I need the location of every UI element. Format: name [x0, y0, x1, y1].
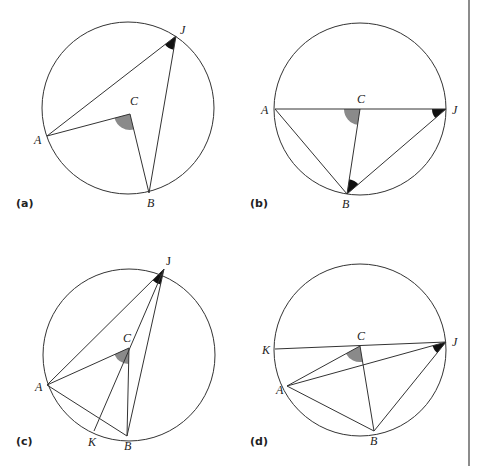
- panel-a-diagram: JACB(a): [16, 22, 214, 210]
- circle: [42, 22, 214, 194]
- point-label-b: B: [370, 434, 378, 448]
- point-label-k: K: [261, 343, 271, 357]
- panel-label: (c): [16, 435, 33, 448]
- segment-ac: [287, 346, 360, 386]
- segment-cb: [360, 346, 374, 431]
- point-label-b: B: [147, 196, 155, 210]
- segment-bj: [347, 109, 446, 194]
- segment-ab: [287, 386, 374, 431]
- point-label-a: A: [34, 380, 43, 394]
- segment-ja: [47, 269, 164, 385]
- point-label-a: A: [275, 383, 284, 397]
- point-label-b: B: [342, 197, 350, 211]
- panel-c-diagram: JACKB(c): [16, 253, 215, 453]
- point-label-c: C: [357, 92, 366, 106]
- point-label-c: C: [130, 94, 139, 108]
- segment-ab: [47, 385, 127, 436]
- point-label-j: J: [166, 253, 171, 268]
- segment-cb: [130, 114, 149, 193]
- segment-ac: [47, 114, 130, 136]
- point-label-j: J: [452, 103, 458, 117]
- segment-ja: [47, 36, 176, 136]
- point-label-c: C: [357, 329, 366, 343]
- panel-label: (b): [250, 197, 268, 210]
- segment-jb: [149, 36, 176, 193]
- point-label-a: A: [33, 133, 42, 147]
- panel-b-diagram: AJCB(b): [250, 23, 458, 211]
- inscribed-angle-theorem-figure: JACB(a) AJCB(b) JACKB(c) KJCAB(d): [0, 0, 480, 466]
- segment-bj: [374, 342, 446, 431]
- segment-jb: [127, 269, 164, 436]
- segment-aj: [287, 342, 446, 386]
- point-label-b: B: [124, 439, 132, 453]
- point-label-k: K: [87, 435, 97, 449]
- panel-label: (d): [250, 435, 268, 448]
- point-label-j: J: [180, 23, 186, 37]
- point-label-c: C: [123, 331, 132, 345]
- point-label-j: J: [452, 335, 458, 349]
- point-label-a: A: [260, 103, 269, 117]
- panel-d-diagram: KJCAB(d): [250, 264, 458, 448]
- panel-label: (a): [16, 197, 33, 210]
